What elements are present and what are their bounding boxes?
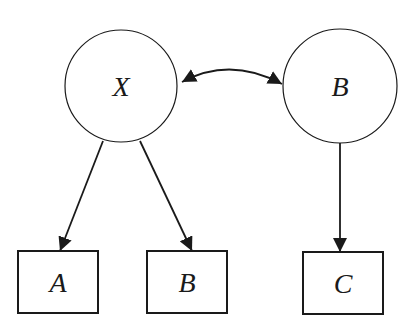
edge-x-to-b bbox=[140, 141, 192, 251]
latent-node-b: B bbox=[283, 29, 397, 143]
edge-x-b-covariance bbox=[182, 69, 282, 84]
observed-node-a: A bbox=[18, 251, 98, 313]
observed-node-c: C bbox=[303, 252, 383, 314]
edge-x-to-a bbox=[60, 141, 103, 251]
latent-node-x: X bbox=[65, 30, 177, 142]
node-label-x: X bbox=[111, 71, 130, 102]
node-label-a: A bbox=[47, 267, 67, 298]
observed-node-b: B bbox=[147, 251, 227, 313]
node-label-b-observed: B bbox=[178, 267, 195, 298]
node-label-b-latent: B bbox=[331, 71, 348, 102]
path-diagram: X B A B C bbox=[0, 0, 419, 334]
node-label-c: C bbox=[334, 268, 353, 299]
